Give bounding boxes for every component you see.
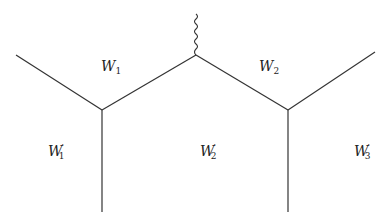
label-sub: 2 [211,151,217,161]
diagram-canvas [0,0,391,221]
edge-right-upper [288,52,375,110]
region-label-w3-prime: W′3 [354,143,370,161]
label-sub: 1 [59,151,65,161]
edge-left-upper [16,55,102,110]
label-sub: 3 [365,151,371,161]
region-label-w2: W2 [259,59,279,76]
label-sub: 1 [115,66,121,76]
label-base: W [101,58,115,74]
label-sub: 2 [273,66,279,76]
region-label-w2-prime: W′2 [200,143,216,161]
region-label-w1-prime: W′1 [48,143,64,161]
label-base: W [259,58,273,74]
region-label-w1: W1 [101,59,121,76]
wavy-edge [195,14,198,55]
